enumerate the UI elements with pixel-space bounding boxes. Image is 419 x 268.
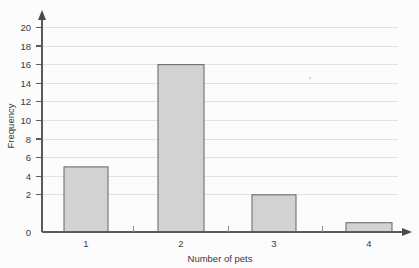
y-tick-label-0: 0 <box>26 227 31 238</box>
y-tick-label-20: 20 <box>20 22 31 33</box>
y-axis-title: Frequency <box>5 103 16 148</box>
y-tick-label-12: 12 <box>20 96 31 107</box>
scan-speck <box>309 77 312 80</box>
y-tick-label-8: 8 <box>26 134 31 145</box>
y-tick-label-16: 16 <box>20 59 31 70</box>
y-tick-label-2: 2 <box>26 189 31 200</box>
bar-category-4[interactable] <box>346 223 392 232</box>
chart-canvas: 20 18 16 14 12 10 8 6 4 2 0 1 2 3 4 Numb… <box>0 0 419 268</box>
x-axis-title: Number of pets <box>188 253 253 264</box>
y-tick-label-18: 18 <box>20 41 31 52</box>
bar-category-1[interactable] <box>64 167 108 232</box>
y-tick-label-6: 6 <box>26 152 31 163</box>
x-tick-label-3: 3 <box>271 238 276 249</box>
y-tick-label-4: 4 <box>26 171 31 182</box>
x-tick-label-1: 1 <box>83 238 88 249</box>
y-tick-label-10: 10 <box>20 115 31 126</box>
bar-category-2[interactable] <box>158 65 204 232</box>
bar-chart-figure: 20 18 16 14 12 10 8 6 4 2 0 1 2 3 4 Numb… <box>0 0 419 268</box>
x-tick-label-4: 4 <box>366 238 371 249</box>
x-tick-label-2: 2 <box>178 238 183 249</box>
bar-category-3[interactable] <box>252 195 296 232</box>
y-tick-label-14: 14 <box>20 78 31 89</box>
